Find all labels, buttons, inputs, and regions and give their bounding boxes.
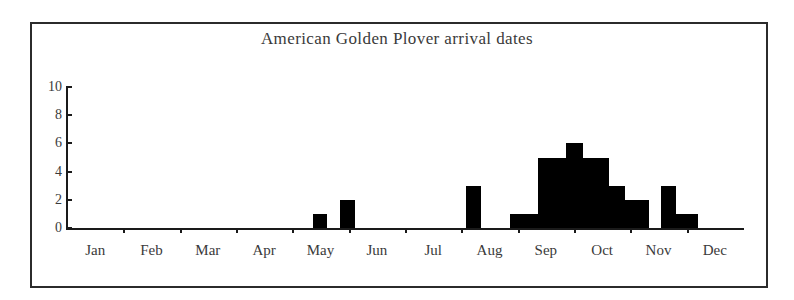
x-axis-tick [123,228,125,233]
x-axis-month-label: Oct [574,243,630,258]
x-axis-month-label: Nov [631,243,687,258]
x-axis-month-label: Jan [67,243,123,258]
histogram-bar [510,214,538,228]
y-axis-tick-label: 8 [36,108,62,122]
histogram-bar [313,214,327,228]
x-axis-month-label: May [293,243,349,258]
x-axis-tick [518,228,520,233]
y-axis-tick-label: 2 [36,193,62,207]
x-axis-tick [687,228,689,233]
histogram-bar [466,186,481,228]
chart-title: American Golden Plover arrival dates [0,29,794,49]
x-axis-month-label: Apr [236,243,292,258]
histogram-bar [609,186,625,228]
histogram-bar [676,214,698,228]
x-axis-tick [574,228,576,233]
x-axis-tick [630,228,632,233]
histogram-bar [625,200,649,228]
plot-area [67,87,743,228]
histogram-bar [566,143,583,228]
histogram-bar [583,158,609,229]
y-axis-tick-label: 4 [36,165,62,179]
y-axis-tick-label: 10 [36,80,62,94]
x-axis-month-label: Jul [405,243,461,258]
x-axis-tick [405,228,407,233]
x-axis-tick [349,228,351,233]
chart-figure: American Golden Plover arrival dates 024… [0,0,794,300]
x-axis-month-label: Mar [180,243,236,258]
x-axis-tick [461,228,463,233]
x-axis-tick [180,228,182,233]
x-axis-month-label: Dec [687,243,743,258]
x-axis-month-label: Aug [462,243,518,258]
x-axis-month-label: Jun [349,243,405,258]
x-axis-tick [292,228,294,233]
x-axis-month-label: Sep [518,243,574,258]
x-axis-tick [236,228,238,233]
histogram-bar [661,186,676,228]
y-axis-tick-label: 0 [36,221,62,235]
x-axis-month-label: Feb [124,243,180,258]
y-axis-tick-label: 6 [36,136,62,150]
bars-layer [67,87,743,228]
histogram-bar [538,158,566,229]
histogram-bar [340,200,355,228]
